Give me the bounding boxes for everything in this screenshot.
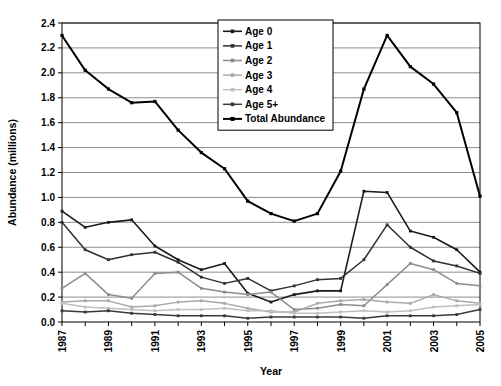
data-point-marker xyxy=(455,248,458,251)
x-tick-label: 2005 xyxy=(475,330,486,353)
x-axis-title: Year xyxy=(260,365,282,377)
data-point-marker xyxy=(84,272,87,275)
data-point-marker xyxy=(246,309,249,312)
y-tick-label: 1.2 xyxy=(41,167,55,178)
data-point-marker xyxy=(339,170,342,173)
data-point-marker xyxy=(153,251,156,254)
data-point-marker xyxy=(84,306,87,309)
data-point-marker xyxy=(270,301,273,304)
data-point-marker xyxy=(409,309,412,312)
legend-item-label: Age 1 xyxy=(245,40,273,51)
data-point-marker xyxy=(362,258,365,261)
data-point-marker xyxy=(107,309,110,312)
data-point-marker xyxy=(293,284,296,287)
legend-item-label: Age 0 xyxy=(245,26,273,37)
data-point-marker xyxy=(200,314,203,317)
series-age-1 xyxy=(61,221,482,292)
data-point-marker xyxy=(339,303,342,306)
legend-swatch-marker xyxy=(231,88,235,92)
series-age-0 xyxy=(61,190,482,304)
legend-item-label: Age 4 xyxy=(245,84,273,95)
legend-item-label: Total Abundance xyxy=(245,113,325,124)
y-axis-title: Abundance (millions) xyxy=(6,119,18,226)
y-tick-label: 2.2 xyxy=(41,42,55,53)
data-point-marker xyxy=(409,302,412,305)
data-point-marker xyxy=(339,299,342,302)
data-point-marker xyxy=(409,246,412,249)
data-point-marker xyxy=(409,65,412,68)
data-point-marker xyxy=(270,291,273,294)
data-point-marker xyxy=(432,306,435,309)
y-tick-label: 1.0 xyxy=(41,192,55,203)
data-point-marker xyxy=(130,218,133,221)
data-point-marker xyxy=(130,308,133,311)
data-point-marker xyxy=(339,277,342,280)
legend-swatch-marker xyxy=(231,59,235,63)
data-point-marker xyxy=(386,223,389,226)
data-point-marker xyxy=(316,289,319,292)
data-point-marker xyxy=(316,212,319,215)
data-point-marker xyxy=(432,293,435,296)
data-point-marker xyxy=(293,308,296,311)
data-point-marker xyxy=(246,277,249,280)
data-point-marker xyxy=(362,309,365,312)
data-point-marker xyxy=(107,87,110,90)
data-point-marker xyxy=(362,298,365,301)
data-point-marker xyxy=(246,317,249,320)
data-point-marker xyxy=(223,262,226,265)
data-point-marker xyxy=(455,282,458,285)
x-tick-label: 1987 xyxy=(57,330,68,353)
data-point-marker xyxy=(362,317,365,320)
data-point-marker xyxy=(61,309,64,312)
data-point-marker xyxy=(293,293,296,296)
data-point-marker xyxy=(153,313,156,316)
data-point-marker xyxy=(293,219,296,222)
data-point-marker xyxy=(107,307,110,310)
y-tick-label: 0.2 xyxy=(41,292,55,303)
data-point-marker xyxy=(386,311,389,314)
x-tick-label: 2003 xyxy=(429,330,440,353)
data-point-marker xyxy=(478,195,481,198)
data-point-marker xyxy=(409,314,412,317)
legend-swatch-marker xyxy=(231,73,235,77)
x-tick-label: 1991 xyxy=(150,330,161,353)
x-axis-group: 1987198919911993199519971999200120032005 xyxy=(57,322,486,352)
data-point-marker xyxy=(409,230,412,233)
y-tick-label: 1.4 xyxy=(41,142,55,153)
data-point-marker xyxy=(293,312,296,315)
data-point-marker xyxy=(223,167,226,170)
data-point-marker xyxy=(479,303,482,306)
y-tick-label: 1.8 xyxy=(41,92,55,103)
data-point-marker xyxy=(130,297,133,300)
data-point-marker xyxy=(61,210,64,213)
data-point-marker xyxy=(316,278,319,281)
y-tick-label: 0.0 xyxy=(41,317,55,328)
data-point-marker xyxy=(386,301,389,304)
data-point-marker xyxy=(386,191,389,194)
data-point-marker xyxy=(60,34,63,37)
data-point-marker xyxy=(200,268,203,271)
data-point-marker xyxy=(84,311,87,314)
data-point-marker xyxy=(107,258,110,261)
data-point-marker xyxy=(455,304,458,307)
data-point-marker xyxy=(270,309,273,312)
data-point-marker xyxy=(455,313,458,316)
data-point-marker xyxy=(84,69,87,72)
data-point-marker xyxy=(316,316,319,319)
x-tick-label: 1989 xyxy=(103,330,114,353)
x-tick-label: 1999 xyxy=(336,330,347,353)
data-point-marker xyxy=(84,226,87,229)
data-point-marker xyxy=(107,299,110,302)
data-point-marker xyxy=(177,308,180,311)
data-point-marker xyxy=(153,309,156,312)
data-point-marker xyxy=(84,248,87,251)
data-point-marker xyxy=(270,316,273,319)
data-point-marker xyxy=(362,190,365,193)
data-point-marker xyxy=(223,314,226,317)
legend-swatch-marker xyxy=(231,117,235,121)
data-point-marker xyxy=(130,253,133,256)
data-point-marker xyxy=(293,316,296,319)
data-point-marker xyxy=(177,271,180,274)
data-point-marker xyxy=(362,87,365,90)
data-point-marker xyxy=(177,261,180,264)
